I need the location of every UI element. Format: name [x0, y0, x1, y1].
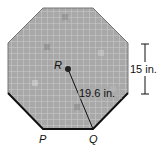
radius-label: 19.6 in.: [79, 87, 115, 99]
center-label: R: [54, 59, 62, 71]
center-point-r: [65, 66, 71, 72]
side-label: 15 in.: [130, 63, 157, 75]
vertex-label-q: Q: [89, 133, 98, 145]
vertex-label-p: P: [39, 133, 47, 145]
octagon-diagram: R 19.6 in. P Q 15 in.: [0, 0, 164, 145]
